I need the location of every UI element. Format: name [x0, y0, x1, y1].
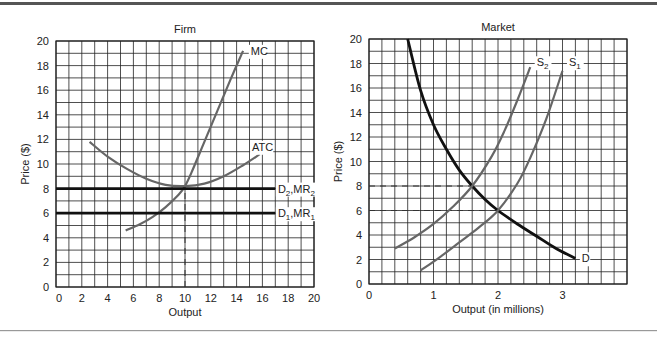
- y-axis-label: Price ($): [332, 141, 344, 183]
- y-tick-label: 10: [350, 156, 362, 168]
- y-tick-label: 8: [43, 183, 49, 195]
- y-axis-label: Price ($): [19, 143, 31, 185]
- bottom-rule: [0, 330, 657, 331]
- label-main: ,MR: [290, 183, 310, 195]
- y-tick-label: 12: [37, 133, 49, 145]
- curve-label: ATC: [252, 141, 273, 153]
- label-subscript: 1: [576, 62, 581, 71]
- y-tick-label: 16: [350, 82, 362, 94]
- label-subscript: 1: [310, 213, 315, 222]
- y-tick-label: 4: [356, 229, 362, 241]
- y-tick-label: 14: [350, 107, 362, 119]
- x-tick-label: 6: [130, 292, 136, 304]
- y-tick-label: 12: [350, 131, 362, 143]
- y-tick-label: 4: [43, 232, 49, 244]
- y-tick-label: 20: [350, 33, 362, 45]
- x-tick-label: 2: [495, 289, 501, 301]
- firm-chart: Firm0246810121416182002468101214161820Ou…: [19, 23, 320, 318]
- label-main: D: [278, 207, 286, 219]
- x-tick-label: 18: [282, 292, 294, 304]
- x-tick-label: 10: [179, 292, 191, 304]
- x-tick-label: 12: [205, 292, 217, 304]
- x-tick-label: 3: [559, 289, 565, 301]
- label-subscript: 2: [544, 62, 549, 71]
- x-tick-label: 1: [430, 289, 436, 301]
- y-tick-label: 8: [356, 180, 362, 192]
- label-main: S: [569, 56, 576, 68]
- chart-title: Firm: [174, 23, 196, 35]
- market-chart: Market024681012141618200123Output (in mi…: [332, 21, 627, 315]
- y-tick-label: 14: [37, 109, 49, 121]
- curve-label: MC: [251, 45, 268, 57]
- x-tick-label: 20: [308, 292, 320, 304]
- x-tick-label: 16: [256, 292, 268, 304]
- curve-label: D: [582, 252, 590, 264]
- chart-canvas: Firm0246810121416182002468101214161820Ou…: [0, 0, 657, 343]
- y-tick-label: 2: [356, 254, 362, 266]
- label-main: ,MR: [290, 207, 310, 219]
- bottom-rule-line: [0, 330, 657, 331]
- chart-title: Market: [481, 21, 515, 33]
- grid: [369, 39, 627, 284]
- y-tick-label: 0: [356, 278, 362, 290]
- x-axis-label: Output (in millions): [452, 303, 544, 315]
- x-tick-label: 14: [230, 292, 242, 304]
- figure: Firm0246810121416182002468101214161820Ou…: [0, 0, 657, 343]
- top-rule-line: [0, 2, 657, 5]
- y-tick-label: 6: [356, 205, 362, 217]
- label-main: S: [537, 56, 544, 68]
- y-tick-label: 0: [43, 281, 49, 293]
- y-tick-label: 2: [43, 256, 49, 268]
- y-tick-label: 20: [37, 35, 49, 47]
- y-tick-label: 10: [37, 158, 49, 170]
- x-axis-label: Output: [168, 306, 201, 318]
- label-subscript: 2: [310, 189, 315, 198]
- y-tick-label: 16: [37, 84, 49, 96]
- x-tick-label: 4: [105, 292, 111, 304]
- curve-s2: [395, 67, 530, 248]
- top-rule: [0, 2, 657, 5]
- x-tick-label: 0: [56, 292, 62, 304]
- x-tick-label: 0: [366, 289, 372, 301]
- y-tick-label: 6: [43, 207, 49, 219]
- y-tick-label: 18: [350, 58, 362, 70]
- label-main: D: [278, 183, 286, 195]
- x-tick-label: 2: [79, 292, 85, 304]
- y-tick-label: 18: [37, 60, 49, 72]
- x-tick-label: 8: [156, 292, 162, 304]
